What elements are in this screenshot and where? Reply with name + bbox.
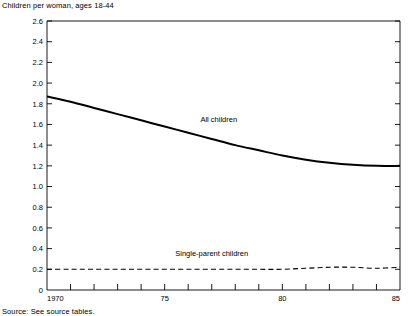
y-tick-label: 0.6	[33, 224, 43, 233]
y-tick-label: 1.4	[33, 141, 43, 150]
y-axis-tick-labels: 00.20.40.60.81.01.21.41.61.82.02.22.42.6	[33, 17, 43, 295]
y-tick-label: 2.4	[33, 37, 43, 46]
y-tick-label: 1.8	[33, 100, 43, 109]
source-note: Source: See source tables.	[2, 307, 95, 316]
y-tick-label: 1.2	[33, 162, 43, 171]
x-tick-label: 85	[392, 294, 400, 303]
line-chart-canvas: 00.20.40.60.81.01.21.41.61.82.02.22.42.6…	[0, 0, 414, 316]
y-tick-label: 0.2	[33, 265, 43, 274]
series-label: Single-parent children	[175, 249, 248, 258]
y-tick-label: 0.8	[33, 203, 43, 212]
x-tick-label: 1970	[47, 294, 64, 303]
y-tick-label: 1.0	[33, 182, 43, 191]
y-tick-label: 1.6	[33, 120, 43, 129]
series-annotations: All childrenSingle-parent children	[175, 115, 248, 257]
series-line	[47, 97, 400, 166]
x-tick-label: 75	[160, 294, 168, 303]
y-tick-label: 2.6	[33, 17, 43, 26]
x-axis-tick-labels: 1970758085	[47, 294, 400, 303]
x-tick-label: 80	[278, 294, 286, 303]
y-tick-label: 0	[39, 286, 43, 295]
series-label: All children	[200, 115, 237, 124]
y-tick-label: 0.4	[33, 244, 43, 253]
chart-root: Children per woman, ages 18-44 00.20.40.…	[0, 0, 414, 316]
y-tick-label: 2.0	[33, 79, 43, 88]
y-tick-label: 2.2	[33, 58, 43, 67]
series-line	[47, 267, 400, 269]
